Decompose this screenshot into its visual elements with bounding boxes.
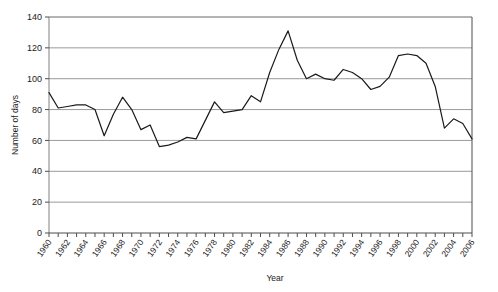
- x-tick-label-1994: 1994: [347, 237, 366, 258]
- x-tick-label-1968: 1968: [108, 237, 127, 258]
- x-axis-title: Year: [266, 273, 283, 283]
- x-tick-label-1964: 1964: [71, 237, 90, 258]
- x-tick-label-2000: 2000: [402, 237, 421, 258]
- y-tick-label-80: 80: [32, 105, 42, 115]
- y-tick-label-120: 120: [27, 43, 42, 53]
- x-tick-label-1974: 1974: [163, 237, 182, 258]
- x-tick-label-1980: 1980: [219, 237, 238, 258]
- line-chart: 020406080100120140 196019621964196619681…: [0, 0, 498, 292]
- x-axis-ticks: [49, 233, 472, 237]
- y-axis-ticks: 020406080100120140: [27, 12, 49, 238]
- x-tick-label-2004: 2004: [439, 237, 458, 258]
- x-tick-label-1978: 1978: [200, 237, 219, 258]
- x-tick-label-2006: 2006: [458, 237, 477, 258]
- x-tick-label-1996: 1996: [366, 237, 385, 258]
- x-tick-label-1986: 1986: [274, 237, 293, 258]
- x-tick-label-1992: 1992: [329, 237, 348, 258]
- y-tick-label-100: 100: [27, 74, 42, 84]
- y-tick-label-40: 40: [32, 166, 42, 176]
- x-tick-label-1970: 1970: [127, 237, 146, 258]
- x-tick-label-1976: 1976: [182, 237, 201, 258]
- y-tick-label-20: 20: [32, 197, 42, 207]
- x-tick-label-1966: 1966: [90, 237, 109, 258]
- x-tick-label-1990: 1990: [310, 237, 329, 258]
- y-axis-title: Number of days: [10, 95, 20, 155]
- x-tick-label-1960: 1960: [35, 237, 54, 258]
- y-tick-label-0: 0: [37, 228, 42, 238]
- x-tick-label-1998: 1998: [384, 237, 403, 258]
- x-tick-label-1982: 1982: [237, 237, 256, 258]
- x-tick-label-1988: 1988: [292, 237, 311, 258]
- x-tick-label-1972: 1972: [145, 237, 164, 258]
- y-tick-label-140: 140: [27, 12, 42, 22]
- x-tick-label-1984: 1984: [255, 237, 274, 258]
- x-axis-tick-labels: 1960196219641966196819701972197419761978…: [35, 237, 477, 258]
- x-tick-label-2002: 2002: [421, 237, 440, 258]
- x-tick-label-1962: 1962: [53, 237, 72, 258]
- plot-area-background: [49, 17, 472, 233]
- y-tick-label-60: 60: [32, 136, 42, 146]
- chart-figure: 020406080100120140 196019621964196619681…: [0, 0, 498, 292]
